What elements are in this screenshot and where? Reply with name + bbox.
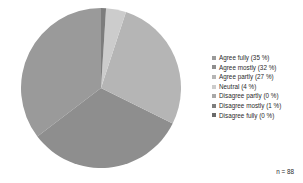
legend-item-label: Disagree mostly (1 %) — [219, 101, 281, 111]
legend-item-agree-fully[interactable]: Agree fully (35 %) — [212, 53, 302, 63]
pie-chart-svg — [21, 8, 181, 168]
legend-item-disagree-mostly[interactable]: Disagree mostly (1 %) — [212, 101, 302, 111]
legend-swatch-icon — [212, 56, 216, 60]
legend-item-label: Neutral (4 %) — [219, 82, 256, 92]
legend-swatch-icon — [212, 94, 216, 98]
legend-item-label: Agree mostly (32 %) — [219, 63, 276, 73]
legend-swatch-icon — [212, 75, 216, 79]
legend-item-disagree-fully[interactable]: Disagree fully (0 %) — [212, 111, 302, 121]
legend-item-neutral[interactable]: Neutral (4 %) — [212, 82, 302, 92]
legend-item-agree-mostly[interactable]: Agree mostly (32 %) — [212, 63, 302, 73]
legend-item-label: Disagree fully (0 %) — [219, 111, 274, 121]
legend-item-label: Agree fully (35 %) — [219, 53, 269, 63]
legend-swatch-icon — [212, 65, 216, 69]
legend-swatch-icon — [212, 113, 216, 117]
legend-swatch-icon — [212, 85, 216, 89]
pie-chart-figure: Agree fully (35 %) Agree mostly (32 %) A… — [0, 0, 303, 183]
legend-item-label: Disagree partly (0 %) — [219, 91, 279, 101]
legend-item-label: Agree partly (27 %) — [219, 72, 274, 82]
legend-item-disagree-partly[interactable]: Disagree partly (0 %) — [212, 91, 302, 101]
legend-item-agree-partly[interactable]: Agree partly (27 %) — [212, 72, 302, 82]
chart-legend: Agree fully (35 %) Agree mostly (32 %) A… — [212, 53, 302, 120]
pie-chart-plot-area — [21, 8, 181, 168]
pie-slice-group — [21, 8, 181, 168]
legend-swatch-icon — [212, 104, 216, 108]
sample-size-annotation: n = 88 — [276, 168, 294, 175]
